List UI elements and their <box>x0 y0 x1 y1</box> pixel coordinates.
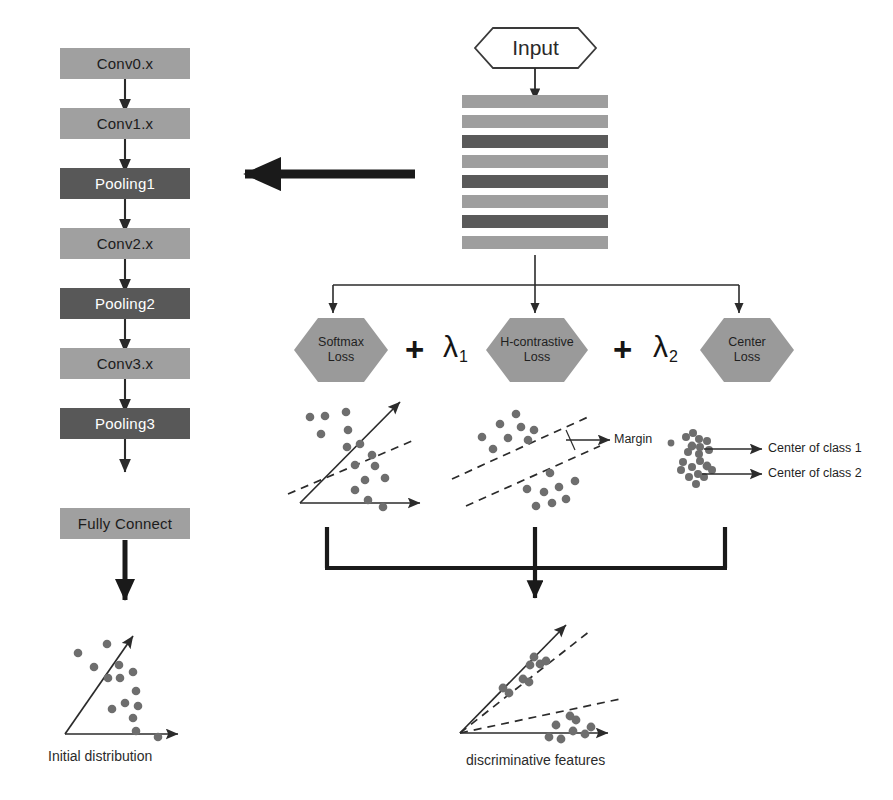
caption-initial-distribution: Initial distribution <box>48 748 152 764</box>
operator-plus-2-text: + <box>613 331 632 368</box>
operator-plus-2: + <box>613 333 632 366</box>
diagram-canvas: Conv0.x Conv1.x Pooling1 Conv2.x Pooling… <box>0 0 893 800</box>
lambda-symbol: λ <box>443 330 458 363</box>
caption-discriminative-features: discriminative features <box>466 752 605 768</box>
operator-plus-1: + <box>405 333 424 366</box>
scatter-center-loss <box>668 429 762 488</box>
pipeline-block-pooling2[interactable]: Pooling2 <box>60 288 190 319</box>
loss-label-line2: Loss <box>734 350 760 365</box>
annotation-center-class-2-text: Center of class 2 <box>768 466 862 480</box>
pipeline-block-label: Pooling2 <box>95 295 155 312</box>
caption-initial-distribution-text: Initial distribution <box>48 748 152 764</box>
operator-plus-1-text: + <box>405 331 424 368</box>
caption-discriminative-features-text: discriminative features <box>466 752 605 768</box>
loss-label-softmax: Softmax Loss <box>294 325 388 375</box>
annotation-center-class-1: Center of class 1 <box>768 441 862 455</box>
annotation-center-class-1-text: Center of class 1 <box>768 441 862 455</box>
scatter-softmax <box>288 402 420 511</box>
pipeline-block-label: Conv1.x <box>97 115 153 132</box>
input-node-text: Input <box>512 36 559 60</box>
weight-lambda-1: λ1 <box>443 332 467 362</box>
loss-label-line2: Loss <box>328 350 354 365</box>
input-node-label: Input <box>475 28 596 68</box>
feature-stack-bar <box>462 175 608 188</box>
loss-label-line1: H-contrastive <box>500 335 574 350</box>
pipeline-block-conv0[interactable]: Conv0.x <box>60 48 190 79</box>
pipeline-block-label: Pooling1 <box>95 175 155 192</box>
loss-label-h-contrastive: H-contrastive Loss <box>486 325 588 375</box>
loss-hexagon-center[interactable] <box>700 318 794 382</box>
pipeline-block-label: Conv2.x <box>97 235 153 252</box>
lambda-symbol: λ <box>653 330 668 363</box>
pipeline-block-conv1[interactable]: Conv1.x <box>60 108 190 139</box>
pipeline-block-label: Pooling3 <box>95 415 155 432</box>
scatter-h-contrastive <box>452 410 610 511</box>
pipeline-block-pooling3[interactable]: Pooling3 <box>60 408 190 439</box>
pipeline-block-label: Conv3.x <box>97 355 153 372</box>
scatter-discriminative-features <box>460 625 620 743</box>
pipeline-block-conv3[interactable]: Conv3.x <box>60 348 190 379</box>
loss-label-center: Center Loss <box>700 325 794 375</box>
pipeline-block-fully-connect[interactable]: Fully Connect <box>60 508 190 539</box>
pipeline-block-conv2[interactable]: Conv2.x <box>60 228 190 259</box>
input-hexagon-shape <box>475 28 596 100</box>
lambda-subscript: 1 <box>459 348 468 365</box>
feature-stack-bar <box>462 215 608 228</box>
pipeline-block-label: Fully Connect <box>78 515 172 532</box>
merge-bracket <box>325 527 727 598</box>
feature-stack-bar <box>462 115 608 128</box>
feature-stack-bar <box>462 155 608 168</box>
loss-label-line1: Softmax <box>318 335 364 350</box>
loss-hexagon-h-contrastive[interactable] <box>486 318 588 382</box>
loss-label-line1: Center <box>728 335 766 350</box>
pipeline-block-pooling1[interactable]: Pooling1 <box>60 168 190 199</box>
feature-stack-bar <box>462 195 608 208</box>
lambda-subscript: 2 <box>669 348 678 365</box>
loss-label-line2: Loss <box>524 350 550 365</box>
fanout-connectors <box>333 255 739 313</box>
feature-stack-bar <box>462 135 608 148</box>
loss-hexagon-softmax[interactable] <box>294 318 388 382</box>
annotation-center-class-2: Center of class 2 <box>768 466 862 480</box>
weight-lambda-2: λ2 <box>653 332 677 362</box>
pipeline-block-label: Conv0.x <box>97 55 153 72</box>
scatter-initial-distribution <box>65 636 178 741</box>
feature-stack-bar <box>462 236 608 249</box>
annotation-margin: Margin <box>614 432 652 446</box>
feature-stack-bar <box>462 95 608 108</box>
annotation-margin-text: Margin <box>614 432 652 446</box>
